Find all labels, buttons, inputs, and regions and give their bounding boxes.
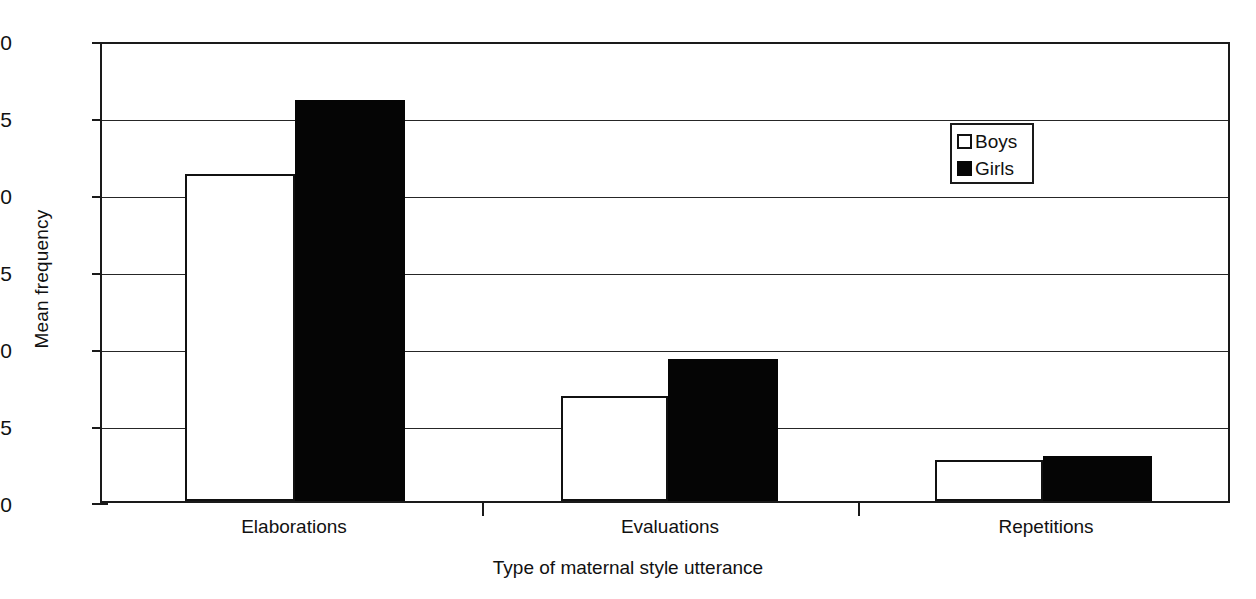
legend-label-boys: Boys bbox=[975, 132, 1017, 151]
hollow-square-swatch-icon bbox=[957, 134, 972, 149]
y-tick-label-20: 20 bbox=[0, 186, 12, 207]
bar-repetitions-boys bbox=[935, 460, 1043, 501]
y-tick-label-15: 15 bbox=[0, 263, 12, 284]
x-axis-title: Type of maternal style utterance bbox=[0, 557, 1256, 579]
x-category-label-evaluations: Evaluations bbox=[540, 516, 800, 538]
legend-label-girls: Girls bbox=[975, 159, 1014, 178]
filled-square-swatch-icon bbox=[957, 161, 972, 176]
bar-evaluations-girls bbox=[668, 359, 778, 501]
gridline-25 bbox=[102, 120, 1228, 121]
y-tick-label-25: 25 bbox=[0, 109, 12, 130]
category-separator-2 bbox=[858, 503, 860, 516]
y-axis-title: Mean frequency bbox=[31, 69, 53, 489]
y-tick-mark-0 bbox=[92, 503, 108, 505]
bar-chart: Mean frequency 30 25 20 15 10 5 0 Elabor… bbox=[0, 0, 1256, 599]
x-category-label-elaborations: Elaborations bbox=[164, 516, 424, 538]
y-tick-label-30: 30 bbox=[0, 32, 12, 53]
bar-elaborations-girls bbox=[295, 100, 405, 501]
x-category-label-repetitions: Repetitions bbox=[916, 516, 1176, 538]
bar-evaluations-boys bbox=[561, 396, 668, 501]
legend-item-boys: Boys bbox=[957, 128, 1028, 155]
plot-area bbox=[100, 42, 1230, 503]
y-tick-label-0: 0 bbox=[0, 494, 12, 515]
y-tick-label-10: 10 bbox=[0, 340, 12, 361]
bar-repetitions-girls bbox=[1043, 456, 1152, 501]
bar-elaborations-boys bbox=[185, 174, 295, 501]
y-tick-label-5: 5 bbox=[0, 417, 12, 438]
category-separator-1 bbox=[482, 503, 484, 516]
legend: Boys Girls bbox=[950, 123, 1034, 184]
legend-item-girls: Girls bbox=[957, 155, 1028, 182]
